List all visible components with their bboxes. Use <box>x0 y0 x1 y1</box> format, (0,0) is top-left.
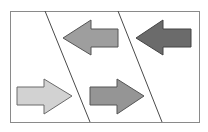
diagram-frame <box>11 12 200 123</box>
arrow-diagram <box>0 0 208 132</box>
